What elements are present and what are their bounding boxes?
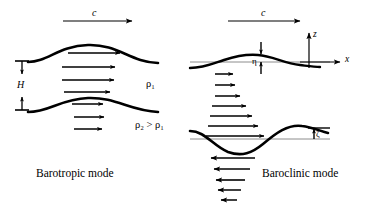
z-axis-label: z bbox=[313, 30, 317, 40]
right-internal-interface-curve bbox=[190, 126, 328, 154]
right-phase-speed-label: c bbox=[261, 8, 265, 18]
figure-canvas: c H ρ₁ ρ₂ > ρ₁ Barotropic mode c z x η ζ… bbox=[0, 0, 365, 206]
right-lower-layer-velocity-arrows bbox=[211, 158, 255, 200]
density-upper-label: ρ₁ bbox=[146, 79, 155, 90]
right-upper-layer-velocity-arrows bbox=[206, 74, 264, 136]
density-lower-label: ρ₂ > ρ₁ bbox=[135, 120, 164, 131]
depth-label-H: H bbox=[17, 80, 24, 90]
left-lower-layer-velocity-arrows bbox=[72, 104, 104, 129]
eta-label: η bbox=[252, 57, 257, 66]
baroclinic-caption: Baroclinic mode bbox=[262, 168, 338, 180]
left-upper-layer-velocity-arrows bbox=[62, 53, 120, 92]
left-free-surface-curve bbox=[28, 45, 158, 63]
left-phase-speed-label: c bbox=[92, 8, 96, 18]
left-panel-group bbox=[15, 21, 158, 129]
zeta-label: ζ bbox=[316, 130, 320, 139]
x-axis-label: x bbox=[345, 55, 349, 65]
left-internal-interface-curve bbox=[28, 98, 158, 112]
barotropic-caption: Barotropic mode bbox=[36, 168, 114, 180]
